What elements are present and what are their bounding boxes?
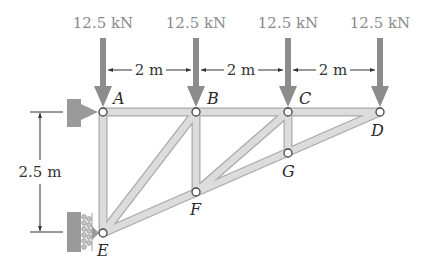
joint-c — [284, 108, 292, 116]
load-label-d: 12.5 kN — [350, 14, 410, 32]
span-label-cd: 2 m — [319, 61, 348, 79]
joint-label-f: F — [189, 200, 202, 219]
pin-support-a — [67, 99, 98, 127]
joint-label-c: C — [299, 89, 311, 108]
truss-diagram: 12.5 kN 12.5 kN 12.5 kN 12.5 kN 2 m 2 m … — [0, 0, 422, 277]
joint-f — [192, 188, 200, 196]
roller-support-e — [67, 212, 99, 252]
joint-label-g: G — [282, 162, 295, 181]
joint-g — [284, 149, 292, 157]
truss-members — [103, 112, 380, 233]
joint-label-b: B — [206, 89, 219, 108]
joint-e — [99, 229, 107, 237]
joint-b — [192, 108, 200, 116]
span-label-bc: 2 m — [227, 61, 256, 79]
joint-label-a: A — [111, 89, 125, 108]
load-arrow-d-icon — [371, 38, 389, 107]
load-label-b: 12.5 kN — [166, 14, 226, 32]
load-label-a: 12.5 kN — [73, 14, 133, 32]
joint-a — [99, 108, 107, 116]
load-arrow-b-icon — [187, 38, 205, 107]
load-arrow-c-icon — [279, 38, 297, 107]
load-label-c: 12.5 kN — [258, 14, 318, 32]
height-label: 2.5 m — [19, 163, 62, 181]
span-label-ab: 2 m — [135, 61, 164, 79]
joint-label-d: D — [370, 121, 384, 140]
load-arrow-a-icon — [94, 38, 112, 107]
joint-d — [376, 108, 384, 116]
joint-label-e: E — [96, 241, 109, 260]
